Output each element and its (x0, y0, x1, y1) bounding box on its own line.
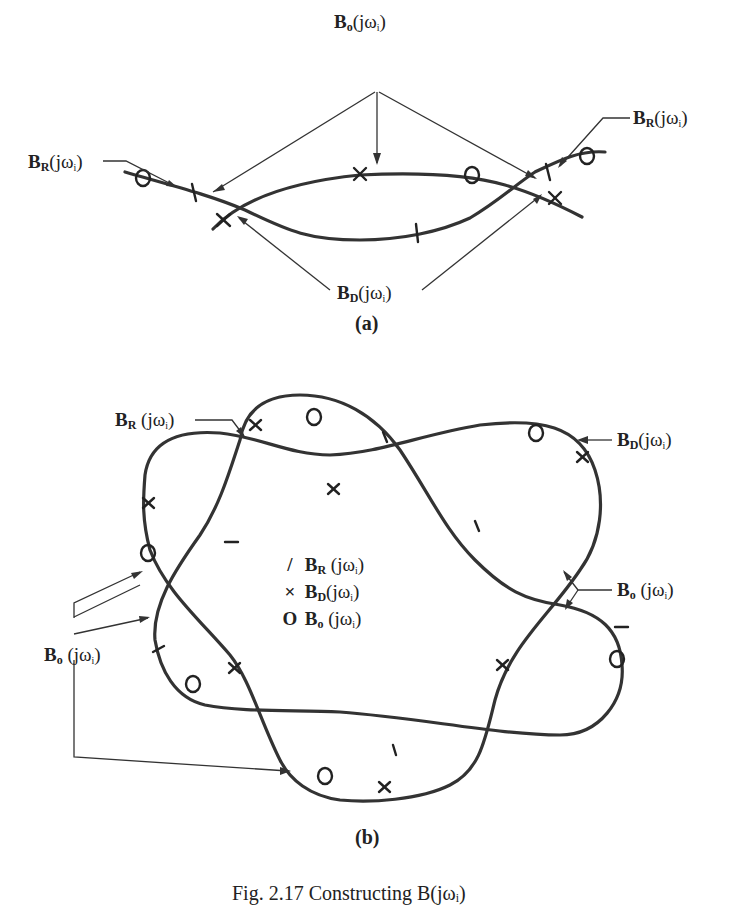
argument-close: ) (358, 554, 364, 575)
cross-marker-icon: × (280, 582, 300, 601)
argument-close: ) (385, 282, 391, 303)
argument-close: ) (355, 608, 361, 629)
argument-close: ) (380, 11, 386, 32)
argument-close: ) (665, 429, 671, 450)
label-br-top: BR (jωi) (115, 410, 174, 431)
argument: (jω (636, 579, 665, 600)
argument: (jω (63, 644, 92, 665)
argument: (jω (323, 608, 352, 629)
symbol: B (305, 608, 318, 629)
label-bo-top: Bo(jωi) (334, 12, 386, 33)
argument: (jω (353, 11, 377, 32)
symbol: B (44, 644, 57, 665)
argument-close: ) (681, 107, 687, 128)
argument: (jω (49, 151, 73, 172)
symbol: B (617, 429, 630, 450)
symbol: B (334, 11, 347, 32)
panel-a-curves (125, 152, 605, 240)
argument: (jω (638, 429, 662, 450)
legend: / BR (jωi) × BD(jωi) O Bo (jωi) (280, 555, 364, 630)
symbol: B (633, 107, 646, 128)
argument-close: ) (168, 409, 174, 430)
argument: (jω (326, 554, 355, 575)
symbol: B (115, 409, 128, 430)
figure-caption: Fig. 2.17 Constructing B(jωᵢ) (232, 882, 466, 905)
panel-b-curves (144, 395, 623, 801)
label-br-left: BR(jωi) (28, 152, 83, 173)
symbol: B (305, 554, 318, 575)
label-bo-right: Bo (jωi) (617, 580, 674, 601)
legend-item-bd: × BD(jωi) (280, 582, 364, 603)
label-bo-left: Bo (jωi) (44, 645, 101, 666)
argument-close: ) (76, 151, 82, 172)
argument: (jω (654, 107, 678, 128)
argument: (jω (136, 409, 165, 430)
argument-close: ) (94, 644, 100, 665)
argument: (jω (358, 282, 382, 303)
label-bd-right: BD(jωi) (617, 430, 672, 451)
subscript: D (317, 590, 326, 604)
argument: (jω (326, 581, 350, 602)
panel-b-label: (b) (355, 826, 379, 849)
label-br-right: BR(jωi) (633, 108, 688, 129)
symbol: B (617, 579, 630, 600)
legend-item-bo: O Bo (jωi) (280, 609, 364, 630)
symbol: B (28, 151, 41, 172)
argument-close: ) (667, 579, 673, 600)
panel-a-leaders (103, 92, 630, 290)
subscript: R (317, 563, 326, 577)
legend-item-br: / BR (jωi) (280, 555, 364, 576)
circle-marker-icon: O (280, 609, 300, 628)
symbol: B (337, 282, 350, 303)
label-bd-bottom: BD(jωi) (337, 283, 392, 304)
symbol: B (305, 581, 318, 602)
argument-close: ) (353, 581, 359, 602)
panel-a-label: (a) (355, 312, 378, 335)
tick-marker-icon: / (280, 555, 300, 574)
